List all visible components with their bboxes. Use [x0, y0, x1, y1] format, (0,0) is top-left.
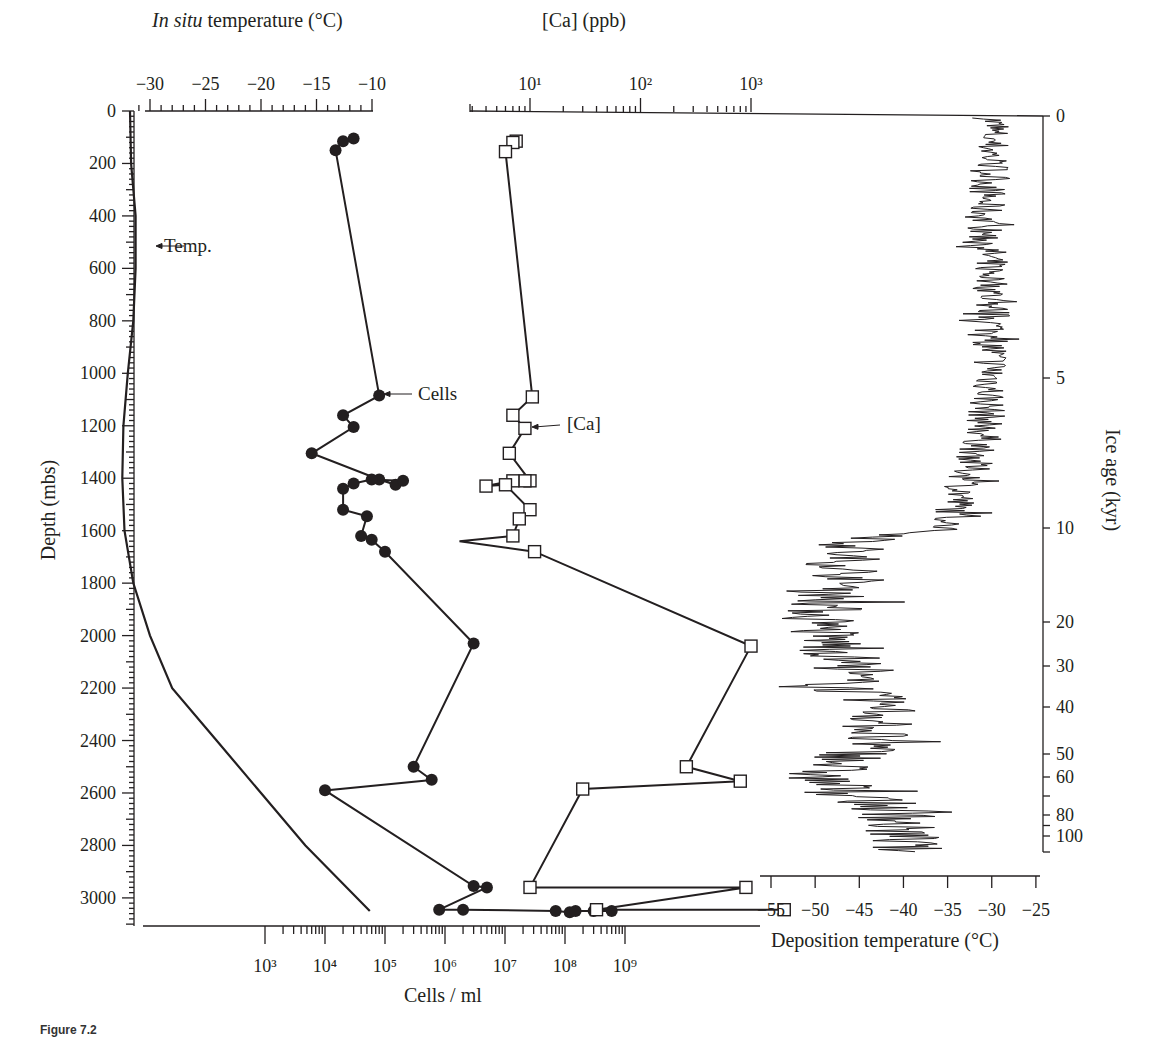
cells-point-icon: [348, 477, 360, 489]
cells-point-icon: [348, 421, 360, 433]
cells-point-icon: [481, 881, 493, 893]
cells-point-icon: [468, 880, 480, 892]
cells-point-icon: [337, 483, 349, 495]
ca-point-icon: [745, 640, 757, 652]
cells-axis-title: Cells / ml: [404, 985, 482, 1005]
cells-line: [312, 139, 612, 913]
cells-point-icon: [366, 474, 378, 486]
svg-text:−30: −30: [136, 74, 164, 94]
svg-text:10³: 10³: [739, 74, 763, 94]
ca-arrowhead-icon: [532, 424, 538, 429]
cells-point-icon: [433, 904, 445, 916]
svg-text:10²: 10²: [629, 74, 652, 94]
svg-text:600: 600: [89, 258, 116, 278]
deposition-temp-axis-title: Deposition temperature (°C): [771, 930, 999, 950]
insitu-temp-axis-title-italic: In situ: [152, 9, 203, 31]
ca-point-icon: [680, 761, 692, 773]
ca-point-icon: [519, 422, 531, 434]
cells-point-icon: [397, 475, 409, 487]
svg-text:2600: 2600: [80, 783, 116, 803]
svg-text:5: 5: [1056, 368, 1065, 388]
svg-text:1600: 1600: [80, 521, 116, 541]
cells-point-icon: [373, 390, 385, 402]
svg-text:1000: 1000: [80, 363, 116, 383]
ca-point-icon: [507, 530, 519, 542]
deposition-temp-trace: [779, 118, 1019, 852]
cells-annotation-label: Cells: [418, 384, 457, 403]
insitu-temp-axis-title-rest: temperature (°C): [203, 9, 343, 31]
svg-text:2400: 2400: [80, 731, 116, 751]
cells-point-icon: [361, 510, 373, 522]
ca-markers: [480, 135, 790, 916]
insitu-temp-axis-title: In situ temperature (°C): [152, 10, 343, 30]
cells-point-icon: [337, 409, 349, 421]
cells-point-icon: [457, 904, 469, 916]
cells-point-icon: [355, 530, 367, 542]
svg-text:1800: 1800: [80, 573, 116, 593]
svg-text:10⁵: 10⁵: [373, 956, 397, 976]
ca-point-icon: [513, 513, 525, 525]
ca-point-icon: [734, 775, 746, 787]
svg-text:100: 100: [1056, 826, 1083, 846]
svg-text:10⁴: 10⁴: [313, 956, 337, 976]
svg-text:60: 60: [1056, 767, 1074, 787]
svg-text:80: 80: [1056, 805, 1074, 825]
svg-text:400: 400: [89, 206, 116, 226]
svg-text:40: 40: [1056, 697, 1074, 717]
temp-annotation-label: Temp.: [164, 236, 212, 255]
svg-text:1400: 1400: [80, 468, 116, 488]
cells-point-icon: [366, 534, 378, 546]
svg-text:10⁷: 10⁷: [493, 956, 517, 976]
cells-point-icon: [550, 905, 562, 917]
svg-text:3000: 3000: [80, 888, 116, 908]
ice-age-axis-title: Ice age (kyr): [1103, 415, 1123, 545]
svg-text:10⁹: 10⁹: [613, 956, 637, 976]
svg-text:−10: −10: [358, 74, 386, 94]
svg-text:10³: 10³: [253, 956, 277, 976]
svg-text:−20: −20: [247, 74, 275, 94]
ice-age-axis-ticks: [1043, 116, 1050, 852]
svg-text:200: 200: [89, 153, 116, 173]
deposition-temp-axis-ticks: [771, 876, 1036, 888]
svg-text:−40: −40: [889, 900, 917, 920]
ca-point-icon: [524, 881, 536, 893]
cells-point-icon: [337, 504, 349, 516]
svg-text:0: 0: [1056, 106, 1065, 126]
svg-text:30: 30: [1056, 656, 1074, 676]
ca-point-icon: [577, 783, 589, 795]
ca-point-icon: [591, 904, 603, 916]
svg-text:−25: −25: [1022, 900, 1050, 920]
cells-point-icon: [306, 447, 318, 459]
insitu-temp-axis-ticks: [139, 99, 372, 111]
svg-text:800: 800: [89, 311, 116, 331]
svg-text:2800: 2800: [80, 835, 116, 855]
depth-axis-title: Depth (mbs): [38, 450, 58, 570]
caption-label: Figure 7.2: [40, 1023, 97, 1037]
ca-point-icon: [499, 146, 511, 158]
cells-point-icon: [319, 784, 331, 796]
cells-point-icon: [330, 144, 342, 156]
ca-point-icon: [507, 409, 519, 421]
cells-point-icon: [468, 637, 480, 649]
svg-text:10⁶: 10⁶: [433, 956, 457, 976]
svg-text:20: 20: [1056, 612, 1074, 632]
ca-line: [460, 141, 785, 910]
ca-annotation-label: [Ca]: [567, 414, 601, 433]
svg-text:10: 10: [1056, 518, 1074, 538]
figure-caption: Figure 7.2: [40, 1023, 97, 1037]
ca-axis-line: [470, 111, 1043, 116]
cells-point-icon: [348, 133, 360, 145]
svg-text:2000: 2000: [80, 626, 116, 646]
svg-text:50: 50: [1056, 744, 1074, 764]
ca-point-icon: [529, 546, 541, 558]
svg-text:10¹: 10¹: [518, 74, 541, 94]
cells-point-icon: [408, 761, 420, 773]
ca-point-icon: [526, 391, 538, 403]
svg-text:−30: −30: [978, 900, 1006, 920]
ca-axis-ticks: [470, 98, 751, 112]
svg-text:0: 0: [107, 101, 116, 121]
cells-point-icon: [426, 774, 438, 786]
ca-point-icon: [503, 447, 515, 459]
svg-text:2200: 2200: [80, 678, 116, 698]
